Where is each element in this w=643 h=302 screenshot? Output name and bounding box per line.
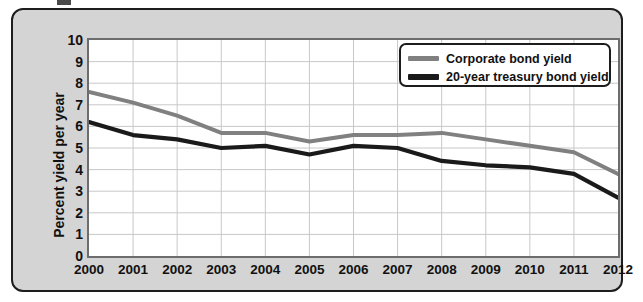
x-tick-2010: 2010 xyxy=(515,262,545,277)
x-tick-2006: 2006 xyxy=(338,262,368,277)
y-tick-8: 8 xyxy=(57,76,83,90)
y-tick-5: 5 xyxy=(57,141,83,155)
legend-swatch-corporate xyxy=(408,56,439,61)
y-tick-9: 9 xyxy=(57,55,83,69)
x-tick-2002: 2002 xyxy=(162,262,192,277)
y-tick-3: 3 xyxy=(57,184,83,198)
y-tick-0: 0 xyxy=(57,249,83,263)
x-tick-2012: 2012 xyxy=(603,262,633,277)
legend-item-treasury: 20-year treasury bond yield xyxy=(408,68,602,85)
y-tick-4: 4 xyxy=(57,163,83,177)
x-tick-2007: 2007 xyxy=(383,262,413,277)
x-tick-2001: 2001 xyxy=(118,262,148,277)
x-tick-2008: 2008 xyxy=(427,262,457,277)
y-axis-title-container: Percent yield per year xyxy=(29,38,53,258)
x-tick-2005: 2005 xyxy=(294,262,324,277)
x-axis-tick-labels: 2000200120022003200420052006200720082009… xyxy=(87,262,620,284)
clipped-text-artifact xyxy=(57,0,71,5)
y-axis-tick-labels: 012345678910 xyxy=(53,38,83,258)
legend-swatch-treasury xyxy=(408,74,439,80)
chart-panel: Percent yield per year 012345678910 2000… xyxy=(11,8,623,292)
x-tick-2011: 2011 xyxy=(559,262,588,277)
x-tick-2004: 2004 xyxy=(250,262,280,277)
chart-figure: Percent yield per year 012345678910 2000… xyxy=(0,0,643,302)
y-tick-1: 1 xyxy=(57,227,83,241)
y-tick-10: 10 xyxy=(57,33,83,47)
x-tick-2009: 2009 xyxy=(471,262,501,277)
y-tick-7: 7 xyxy=(57,98,83,112)
legend-label-corporate: Corporate bond yield xyxy=(446,52,572,66)
x-tick-2000: 2000 xyxy=(74,262,104,277)
legend-label-treasury: 20-year treasury bond yield xyxy=(446,70,609,84)
legend-item-corporate: Corporate bond yield xyxy=(408,50,602,67)
chart-legend: Corporate bond yield 20-year treasury bo… xyxy=(399,43,611,87)
x-tick-2003: 2003 xyxy=(206,262,236,277)
y-tick-2: 2 xyxy=(57,206,83,220)
y-tick-6: 6 xyxy=(57,119,83,133)
